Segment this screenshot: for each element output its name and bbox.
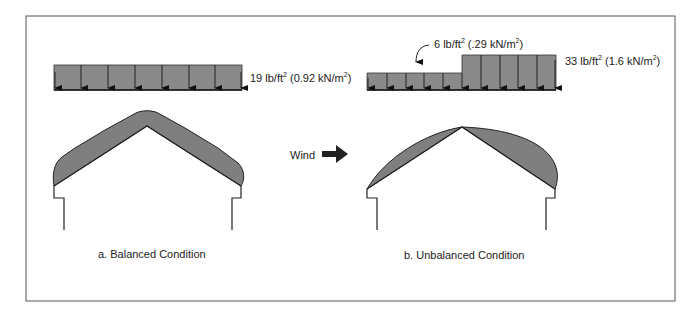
unbalanced-load-bar [367,55,556,90]
unbalanced-caption: b. Unbalanced Condition [404,249,524,261]
wind-arrow-icon [322,145,348,163]
balanced-snow-layer [53,111,243,186]
unbalanced-high-load-label: 33 lb/ft2 (1.6 kN/m2) [565,54,660,67]
unbalanced-low-load-label: 6 lb/ft2 (.29 kN/m2) [434,37,523,50]
balanced-load-label: 19 lb/ft2 (0.92 kN/m2) [250,71,351,84]
snow-load-diagram: 19 lb/ft2 (0.92 kN/m2) a. Balanced Condi… [0,0,698,323]
balanced-caption: a. Balanced Condition [98,248,206,260]
balanced-load-bar [54,65,242,90]
balanced-building-outline [54,126,241,230]
low-load-pointer-arrow [416,45,429,62]
wind-label: Wind [290,149,315,161]
